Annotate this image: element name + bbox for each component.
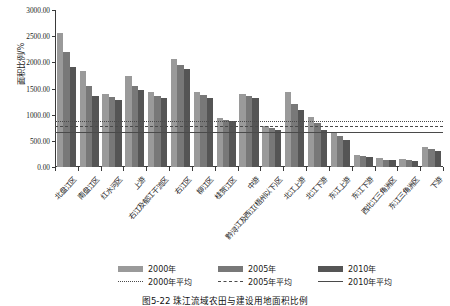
x-axis-tick-mark [215,167,216,171]
legend-swatch-icon [218,266,243,272]
x-axis-tick-label: 北江上游 [280,174,306,202]
bar [138,90,144,167]
bar-group [375,10,398,167]
x-axis-tick-label: 下游 [426,174,443,191]
bar-group [192,10,215,167]
legend-line-icon [118,281,143,282]
x-axis-tick-mark [101,167,102,171]
bar-group [420,10,443,167]
x-axis-tick-mark [420,167,421,171]
bar [435,151,441,167]
reference-line [55,132,443,133]
legend-line-icon [318,281,343,282]
bar [366,157,372,167]
bar [412,161,418,167]
y-axis-tick-label: 3000.00 [0,6,50,15]
legend-label: 2000年平均 [148,276,192,287]
bar [275,130,281,167]
bar [298,110,304,167]
bar-group [215,10,238,167]
y-axis-tick-label: 0.00 [0,163,50,172]
legend-item-bar: 2005年 [218,263,318,274]
bar [70,67,76,167]
bar-group [329,10,352,167]
figure-chart-area: 0.00500.001000.001500.002000.002500.0030… [0,0,450,306]
legend-row-lines: 2000年平均2005年平均2010年平均 [118,275,418,288]
bar-group [352,10,375,167]
legend-label: 2005年平均 [248,276,292,287]
bar [343,140,349,167]
bar-group [397,10,420,167]
x-axis-tick-label: 南盘江区 [75,174,101,202]
x-axis-tick-label: 红水河区 [98,174,124,202]
bar-group [260,10,283,167]
legend-swatch-icon [318,266,343,272]
bar-group [78,10,101,167]
bar-group [55,10,78,167]
x-axis-tick-label: 上游 [130,174,147,191]
x-axis-tick-mark [329,167,330,171]
legend-item-line: 2000年平均 [118,276,218,287]
x-axis-tick-mark [123,167,124,171]
x-axis-tick-mark [352,167,353,171]
x-axis-tick-label: 东江上游 [326,174,352,202]
bar [389,160,395,167]
bar-group [123,10,146,167]
legend-label: 2010年 [348,263,376,274]
figure-caption: 图5-22 珠江流域农田与建设用地面积比例 [0,294,450,306]
x-axis-tick-mark [238,167,239,171]
x-axis-tick-mark [283,167,284,171]
reference-line [55,126,443,127]
x-axis-tick-mark [443,167,444,171]
x-axis-tick-label: 桂贺江区 [212,174,238,202]
legend-swatch-icon [118,266,143,272]
x-axis-tick-mark [192,167,193,171]
bar [115,100,121,168]
bar-group [283,10,306,167]
x-axis-tick-mark [169,167,170,171]
bar [229,121,235,167]
bar-groups [55,10,443,167]
bar-group [101,10,124,167]
bar-group [146,10,169,167]
reference-line [55,121,443,122]
x-axis-tick-label: 右江区 [171,174,193,197]
bar [321,130,327,167]
legend-label: 2000年 [148,263,176,274]
x-axis-tick-label: 北盘江区 [52,174,78,202]
bar-group [238,10,261,167]
y-axis-tick-label: 1000.00 [0,110,50,119]
x-axis-tick-mark [78,167,79,171]
y-axis: 0.00500.001000.001500.002000.002500.0030… [0,0,54,306]
x-axis-tick-label: 北江下游 [303,174,329,202]
legend-item-bar: 2010年 [318,263,418,274]
x-axis-tick-mark [306,167,307,171]
x-axis-tick-mark [260,167,261,171]
x-axis-tick-mark [375,167,376,171]
chart-legend: 2000年2005年2010年 2000年平均2005年平均2010年平均 [118,262,418,288]
y-axis-tick-label: 500.00 [0,136,50,145]
bar [184,69,190,167]
legend-label: 2010年平均 [348,276,392,287]
legend-row-bars: 2000年2005年2010年 [118,262,418,275]
legend-line-icon [218,281,243,282]
legend-label: 2005年 [248,263,276,274]
bar-group [169,10,192,167]
legend-item-bar: 2000年 [118,263,218,274]
legend-item-line: 2010年平均 [318,276,418,287]
legend-item-line: 2005年平均 [218,276,318,287]
x-axis-tick-label: 中游 [244,174,261,191]
bar-group [306,10,329,167]
x-axis-tick-mark [146,167,147,171]
x-axis-tick-mark [55,167,56,171]
y-axis-title: 面积比例/% [14,18,26,110]
x-axis-tick-mark [397,167,398,171]
